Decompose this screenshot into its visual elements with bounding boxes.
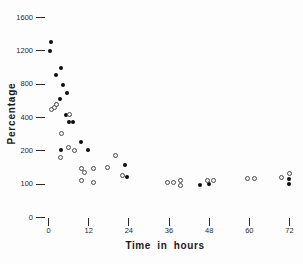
scatter-plot: Percentage 010020040080012001600 0122436… [0,0,303,264]
x-tick-mark [169,218,170,226]
x-tick-label: 60 [239,227,259,235]
x-tick-label: 72 [280,227,300,235]
y-tick-label: 400 [5,114,33,121]
x-tick-mark [88,218,89,226]
data-point-filled [61,83,65,87]
data-point-filled [86,148,90,152]
data-point-open [105,165,110,170]
y-tick-label: 800 [5,80,33,87]
data-point-filled [54,73,58,77]
y-tick-label: 1600 [5,14,33,21]
data-point-filled [59,66,63,70]
y-tick-mark [36,117,45,118]
x-tick-label: 0 [39,227,59,235]
x-tick-label: 24 [119,227,139,235]
data-point-filled [65,91,69,95]
y-tick-mark [36,50,45,51]
data-point-open [72,148,77,153]
data-point-filled [198,183,202,187]
data-point-open [252,176,257,181]
x-tick-mark [128,218,129,226]
data-point-open [113,153,118,158]
data-point-filled [48,49,52,53]
data-point-filled [59,148,63,152]
data-point-filled [287,177,291,181]
data-point-filled [79,140,83,144]
data-point-open [66,145,71,150]
data-point-open [211,178,216,183]
y-tick-label: 200 [5,147,33,154]
data-point-filled [49,40,53,44]
data-point-open [58,155,63,160]
data-point-filled [123,163,127,167]
data-point-open [165,180,170,185]
data-point-filled [58,97,62,101]
data-point-open [171,180,176,185]
y-tick-label: 0 [5,214,33,221]
y-tick-mark [36,217,45,218]
y-tick-mark [36,184,45,185]
data-point-filled [287,182,291,186]
data-point-open [91,166,96,171]
y-tick-mark [36,84,45,85]
data-point-open [67,112,72,117]
data-point-open [279,175,284,180]
x-tick-mark [209,218,210,226]
x-tick-label: 36 [159,227,179,235]
x-tick-mark [48,218,49,226]
data-point-open [82,170,87,175]
y-tick-label: 1200 [5,47,33,54]
data-point-open [79,178,84,183]
data-point-open [178,183,183,188]
data-point-filled [71,120,75,124]
x-tick-label: 48 [199,227,219,235]
y-tick-label: 100 [5,180,33,187]
y-tick-mark [36,17,45,18]
x-tick-mark [249,218,250,226]
x-tick-mark [289,218,290,226]
x-axis-title: Time in hours [95,240,235,251]
data-point-open [59,131,64,136]
y-tick-mark [36,150,45,151]
data-point-open [287,171,292,176]
data-point-open [91,180,96,185]
data-point-open [245,176,250,181]
x-tick-label: 12 [79,227,99,235]
data-point-filled [125,175,129,179]
data-point-open [54,102,59,107]
